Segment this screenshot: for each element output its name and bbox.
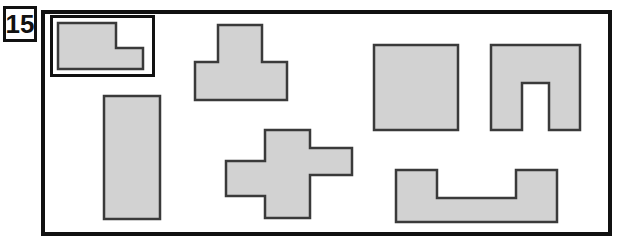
worksheet-figure: 15 L-shape (worked example)T-shapeTall v… bbox=[0, 0, 623, 246]
shape-square: Square bbox=[374, 45, 458, 130]
problem-number-label: 15 bbox=[6, 9, 35, 39]
figure-canvas: 15 L-shape (worked example)T-shapeTall v… bbox=[0, 0, 623, 246]
shape-tall-rectangle: Tall vertical rectangle bbox=[104, 96, 160, 219]
problem-number-group: 15 bbox=[5, 8, 36, 41]
